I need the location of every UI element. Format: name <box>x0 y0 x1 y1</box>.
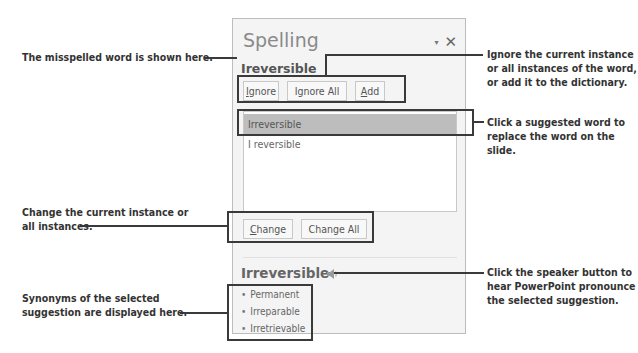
callout-suggestion: Click a suggested word to replace the wo… <box>487 115 637 157</box>
ignore-leader-vline <box>325 54 327 76</box>
pane-title: Spelling <box>243 29 319 51</box>
ignore-leader-line <box>325 54 483 56</box>
ignore-buttons-frame <box>237 75 406 103</box>
callout-change: Change the current instance or all insta… <box>22 205 202 233</box>
close-icon[interactable]: ✕ <box>444 33 457 51</box>
synonym-heading: Irreversible <box>241 265 329 281</box>
speaker-leader-line <box>334 272 484 274</box>
pane-controls: ▾ ✕ <box>434 33 457 51</box>
change-buttons-frame <box>227 211 374 243</box>
callout-ignore: Ignore the current instance or all insta… <box>487 47 637 89</box>
misspelled-word: Ireversible <box>241 61 317 76</box>
suggestion-item[interactable]: I reversible <box>244 134 456 154</box>
divider <box>243 257 457 258</box>
suggestion-leader-line <box>474 121 484 123</box>
speaker-icon[interactable] <box>325 267 339 281</box>
synonyms-leader-line <box>180 312 227 314</box>
synonyms-frame <box>227 284 313 341</box>
pane-options-dropdown-icon[interactable]: ▾ <box>434 38 438 47</box>
suggestion-frame <box>237 109 474 136</box>
callout-speaker: Click the speaker button to hear PowerPo… <box>487 265 637 307</box>
callout-misspelled: The misspelled word is shown here. <box>22 50 207 64</box>
callout-synonyms: Synonyms of the selected suggestion are … <box>22 291 187 319</box>
